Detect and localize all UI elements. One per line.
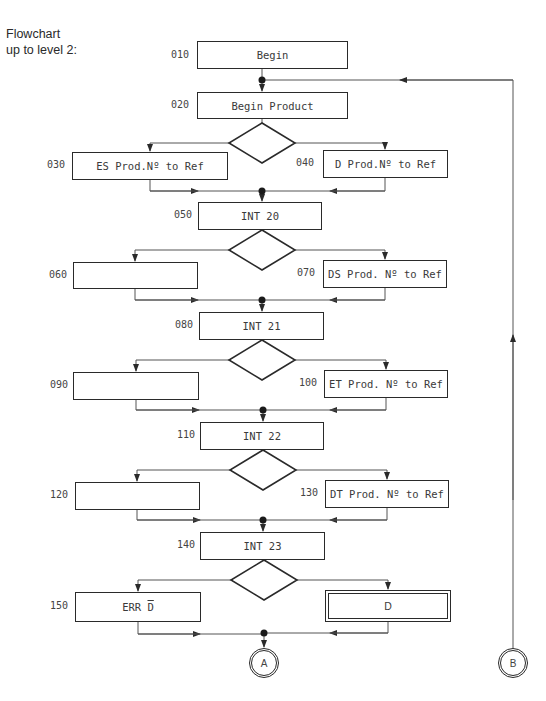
- process-label-overline: D: [147, 601, 153, 613]
- process-label: INT 23: [244, 540, 282, 552]
- process-int-20[interactable]: INT 20: [198, 202, 322, 230]
- process-120[interactable]: [75, 482, 200, 510]
- process-label: Begin: [257, 49, 289, 61]
- process-label: INT 21: [243, 320, 281, 332]
- node-number-110: 110: [177, 429, 195, 440]
- process-label: Begin Product: [231, 100, 313, 112]
- process-060[interactable]: [73, 262, 198, 289]
- node-number-020: 020: [171, 99, 189, 110]
- connector-a[interactable]: A: [249, 648, 279, 678]
- node-number-100: 100: [299, 377, 317, 388]
- decision-3: [229, 340, 295, 380]
- node-number-040: 040: [296, 157, 314, 168]
- process-070[interactable]: DS Prod. Nº to Ref: [323, 260, 447, 288]
- process-130[interactable]: DT Prod. Nº to Ref: [325, 480, 449, 508]
- node-number-030: 030: [47, 159, 65, 170]
- node-number-050: 050: [174, 209, 192, 220]
- process-label: ET Prod. Nº to Ref: [329, 378, 443, 390]
- subprocess-d[interactable]: D: [325, 590, 451, 622]
- process-begin-product[interactable]: Begin Product: [197, 92, 348, 119]
- decision-2: [229, 230, 295, 270]
- process-label: INT 20: [241, 210, 279, 222]
- process-label: D: [384, 600, 392, 612]
- node-number-140: 140: [177, 539, 195, 550]
- process-040[interactable]: D Prod.Nº to Ref: [323, 150, 448, 178]
- process-label-prefix: ERR: [122, 601, 147, 613]
- process-label: INT 22: [243, 430, 281, 442]
- connector-b[interactable]: B: [498, 648, 528, 678]
- node-number-080: 080: [175, 319, 193, 330]
- process-int-22[interactable]: INT 22: [200, 422, 324, 450]
- node-number-070: 070: [297, 267, 315, 278]
- process-begin[interactable]: Begin: [197, 41, 348, 69]
- process-100[interactable]: ET Prod. Nº to Ref: [324, 370, 448, 398]
- node-number-010: 010: [171, 49, 189, 60]
- connector-label: A: [261, 658, 268, 669]
- node-number-090: 090: [50, 379, 68, 390]
- node-number-060: 060: [49, 269, 67, 280]
- process-label: ES Prod.Nº to Ref: [96, 160, 203, 172]
- connector-label: B: [510, 658, 517, 669]
- process-int-23[interactable]: INT 23: [200, 532, 325, 560]
- node-number-150: 150: [50, 600, 68, 611]
- node-number-120: 120: [50, 489, 68, 500]
- process-int-21[interactable]: INT 21: [199, 312, 324, 340]
- decision-1: [229, 123, 295, 163]
- process-label: DS Prod. Nº to Ref: [328, 268, 442, 280]
- node-number-130: 130: [300, 487, 318, 498]
- process-090[interactable]: [73, 372, 199, 400]
- process-label: DT Prod. Nº to Ref: [330, 488, 444, 500]
- decision-5: [231, 560, 297, 600]
- decision-4: [230, 450, 296, 490]
- process-label: D Prod.Nº to Ref: [335, 158, 436, 170]
- process-err-d[interactable]: ERR D: [75, 592, 201, 622]
- process-030[interactable]: ES Prod.Nº to Ref: [72, 152, 228, 180]
